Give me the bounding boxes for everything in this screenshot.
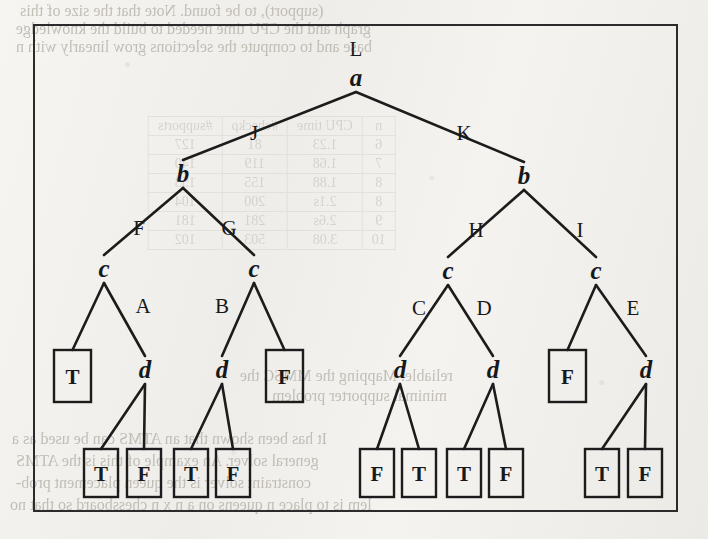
tree-node-label: c [442, 257, 453, 284]
tree-node-label: b [518, 162, 531, 189]
tree-edge [254, 283, 285, 350]
tree-node-label: c [98, 255, 109, 282]
tree-edge [493, 384, 506, 449]
tree-edge [400, 384, 419, 449]
tree-edge-label: E [627, 296, 640, 320]
tree-node-label: d [139, 356, 152, 383]
tree-leaf-label: F [371, 462, 384, 486]
tree-edge-label: B [215, 294, 229, 318]
tree-edge-label: A [135, 294, 151, 318]
tree-leaf-label: F [561, 365, 574, 389]
tree-edge [191, 384, 222, 449]
tree-edge [183, 92, 356, 160]
tree-leaf-label: T [184, 462, 198, 486]
tree-leaf-label: T [457, 462, 471, 486]
tree-edge-label: J [250, 121, 258, 145]
tree-edge-label: I [577, 218, 584, 242]
tree-edge [377, 384, 400, 449]
tree-leaf-label: F [639, 462, 652, 486]
tree-edge [101, 384, 145, 449]
tree-edge-label: D [476, 296, 491, 320]
tree-edge-label: C [412, 296, 426, 320]
tree-leaf-label: T [595, 462, 609, 486]
tree-edge [183, 188, 254, 255]
tree-edge [524, 190, 596, 257]
tree-edge [568, 285, 597, 350]
derivation-tree: TFFTFTFFTTFTF aLbbccccddddd JKFGHIABCDE [0, 0, 708, 539]
tree-node-label: d [487, 356, 500, 383]
tree-leaf-label: T [412, 462, 426, 486]
tree-edge [645, 384, 646, 449]
tree-edge-label: F [133, 216, 145, 240]
tree-leaf-label: T [94, 462, 108, 486]
tree-node-label: a [350, 64, 363, 91]
tree-edge-label: H [468, 218, 483, 242]
tree-node-label: b [177, 160, 190, 187]
tree-node-label: c [248, 255, 259, 282]
tree-edges [73, 92, 647, 449]
tree-nodes: aLbbccccddddd [98, 37, 652, 383]
tree-leaf-label: T [65, 365, 79, 389]
tree-node-label: d [640, 356, 653, 383]
tree-edge [144, 384, 145, 449]
tree-node-label: c [590, 257, 601, 284]
tree-edge-label: G [221, 216, 236, 240]
tree-leaf-label: F [500, 462, 513, 486]
tree-edge [602, 384, 646, 449]
tree-leaf-label: F [138, 462, 151, 486]
tree-edge-label: K [456, 121, 471, 145]
tree-node-label: d [216, 356, 229, 383]
tree-edge [464, 384, 493, 449]
tree-edge [73, 283, 105, 350]
tree-edge [222, 384, 233, 449]
tree-node-label: d [394, 356, 407, 383]
tree-edge [356, 92, 524, 162]
tree-leaf-label: F [278, 365, 291, 389]
tree-leaf-label: F [227, 462, 240, 486]
tree-root-label: L [350, 37, 363, 61]
scanned-page: nCPU time#checkρ#supports 61.238112771.6… [0, 0, 708, 539]
tree-edge [448, 190, 524, 257]
